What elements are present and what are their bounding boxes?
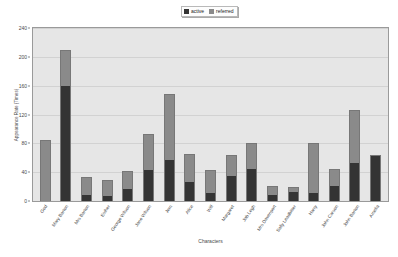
x-axis-label-slot: Harry bbox=[309, 203, 320, 241]
bar-column[interactable] bbox=[205, 28, 216, 201]
bar-segment-referred[interactable] bbox=[144, 135, 153, 171]
plot-area bbox=[32, 27, 389, 202]
bar-stack[interactable] bbox=[164, 94, 175, 201]
bar-segment-referred[interactable] bbox=[350, 111, 359, 162]
bar-segment-active[interactable] bbox=[227, 176, 236, 201]
bar-stack[interactable] bbox=[370, 155, 381, 201]
x-axis-tick-label: Amelia bbox=[369, 204, 381, 219]
x-axis-tick-label: George Wilson bbox=[110, 204, 131, 232]
bar-segment-active[interactable] bbox=[268, 195, 277, 201]
y-axis-tick-label: 160 bbox=[19, 83, 27, 88]
legend-label-active: active bbox=[191, 9, 204, 14]
bar-segment-referred[interactable] bbox=[309, 144, 318, 193]
bar-segment-active[interactable] bbox=[103, 196, 112, 201]
x-axis-tick-label: Margaret bbox=[221, 204, 236, 222]
x-axis-tick-label: Esther bbox=[99, 204, 111, 218]
bar-segment-referred[interactable] bbox=[330, 170, 339, 186]
bar-stack[interactable] bbox=[122, 171, 133, 201]
x-axis-label-slot: Amelia bbox=[371, 203, 382, 241]
x-axis-tick-label: Jane Wilson bbox=[134, 204, 152, 228]
bar-column[interactable] bbox=[370, 28, 381, 201]
bar-column[interactable] bbox=[164, 28, 175, 201]
bar-column[interactable] bbox=[40, 28, 51, 201]
bar-segment-active[interactable] bbox=[61, 86, 70, 201]
y-axis-tick-label: 0 bbox=[24, 199, 27, 204]
x-axis-label-slot: John Barton bbox=[350, 203, 361, 241]
legend-entry-active[interactable]: active bbox=[184, 9, 204, 14]
bar-column[interactable] bbox=[246, 28, 257, 201]
bar-column[interactable] bbox=[308, 28, 319, 201]
x-axis-label-slot: God bbox=[39, 203, 50, 241]
bar-segment-referred[interactable] bbox=[165, 95, 174, 159]
bar-segment-referred[interactable] bbox=[206, 171, 215, 193]
bar-stack[interactable] bbox=[40, 140, 51, 201]
bar-segment-active[interactable] bbox=[82, 195, 91, 201]
bar-stack[interactable] bbox=[246, 143, 257, 201]
bar-stack[interactable] bbox=[60, 50, 71, 201]
y-axis-ticks: 04080120160200240 bbox=[0, 27, 30, 202]
bar-stack[interactable] bbox=[205, 170, 216, 201]
x-axis-label-slot: Margaret bbox=[226, 203, 237, 241]
bar-segment-active[interactable] bbox=[247, 169, 256, 201]
bar-stack[interactable] bbox=[329, 169, 340, 201]
bar-column[interactable] bbox=[288, 28, 299, 201]
y-axis-tick-mark bbox=[28, 85, 30, 86]
x-axis-label-slot: Mrs Davenport bbox=[267, 203, 278, 241]
bar-stack[interactable] bbox=[267, 186, 278, 201]
bar-stack[interactable] bbox=[349, 110, 360, 201]
bar-segment-referred[interactable] bbox=[268, 187, 277, 195]
bar-segment-active[interactable] bbox=[165, 160, 174, 201]
bar-stack[interactable] bbox=[81, 177, 92, 201]
bar-segment-referred[interactable] bbox=[82, 178, 91, 195]
bar-stack[interactable] bbox=[184, 154, 195, 201]
bar-segment-referred[interactable] bbox=[227, 156, 236, 176]
bar-column[interactable] bbox=[349, 28, 360, 201]
bar-column[interactable] bbox=[60, 28, 71, 201]
x-axis-label-slot: Sally Leadbitter bbox=[288, 203, 299, 241]
x-axis-tick-label: Sally Leadbitter bbox=[276, 204, 298, 233]
bar-column[interactable] bbox=[81, 28, 92, 201]
x-axis-labels: GodMary BartonMrs BartonEstherGeorge Wil… bbox=[32, 203, 389, 241]
bar-segment-active[interactable] bbox=[350, 163, 359, 202]
bar-column[interactable] bbox=[226, 28, 237, 201]
bar-column[interactable] bbox=[184, 28, 195, 201]
bar-segment-active[interactable] bbox=[185, 182, 194, 201]
bar-segment-referred[interactable] bbox=[103, 181, 112, 195]
x-axis-title: Characters bbox=[32, 238, 389, 244]
x-axis-tick-label: John Carson bbox=[320, 204, 339, 229]
bar-segment-active[interactable] bbox=[289, 192, 298, 201]
bar-segment-referred[interactable] bbox=[41, 141, 50, 201]
bar-stack[interactable] bbox=[143, 134, 154, 201]
bar-column[interactable] bbox=[267, 28, 278, 201]
bar-stack[interactable] bbox=[308, 143, 319, 201]
bar-segment-referred[interactable] bbox=[123, 172, 132, 189]
y-axis-tick-mark bbox=[28, 201, 30, 202]
bar-stack[interactable] bbox=[102, 180, 113, 201]
bar-segment-referred[interactable] bbox=[185, 155, 194, 182]
chart-figure: active referred Appearance Rate (Times) … bbox=[0, 0, 398, 257]
bar-column[interactable] bbox=[329, 28, 340, 201]
bar-stack[interactable] bbox=[288, 187, 299, 201]
bar-column[interactable] bbox=[143, 28, 154, 201]
bar-segment-active[interactable] bbox=[371, 156, 380, 201]
legend-entry-referred[interactable]: referred bbox=[209, 9, 234, 14]
x-axis-tick-label: Mrs Barton bbox=[73, 204, 90, 226]
bar-column[interactable] bbox=[122, 28, 133, 201]
x-axis-tick-label: Job Legh bbox=[241, 204, 256, 223]
bar-column[interactable] bbox=[102, 28, 113, 201]
bar-segment-active[interactable] bbox=[123, 189, 132, 201]
x-axis-tick-label: God bbox=[40, 204, 49, 214]
bar-series-group bbox=[33, 28, 388, 201]
x-axis-tick-label: Harry bbox=[308, 204, 319, 216]
bar-segment-referred[interactable] bbox=[247, 144, 256, 169]
bar-segment-active[interactable] bbox=[144, 170, 153, 201]
x-axis-label-slot: Alice bbox=[184, 203, 195, 241]
bar-segment-active[interactable] bbox=[309, 193, 318, 201]
bar-segment-active[interactable] bbox=[206, 193, 215, 201]
x-axis-tick-label: John Barton bbox=[342, 204, 360, 227]
bar-stack[interactable] bbox=[226, 155, 237, 201]
bar-segment-referred[interactable] bbox=[61, 51, 70, 87]
bar-segment-active[interactable] bbox=[330, 186, 339, 201]
x-axis-tick-label: Will bbox=[206, 204, 214, 213]
y-axis-tick-mark bbox=[28, 28, 30, 29]
